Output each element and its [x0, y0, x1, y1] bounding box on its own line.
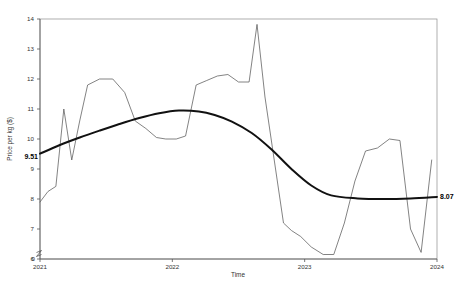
y-tick-label: 7	[31, 225, 35, 232]
y-tick-label-zero: 0	[32, 255, 36, 262]
y-tick-label: 12	[27, 75, 34, 82]
trend-end-value-label: 8.07	[440, 193, 454, 200]
line-chart: 67891011121314 0 2021202220232024 Time P…	[0, 0, 460, 284]
series-group	[40, 24, 437, 254]
y-tick-label: 10	[27, 135, 34, 142]
x-axis-title: Time	[231, 271, 245, 278]
plot-frame	[40, 19, 437, 259]
trend-start-value-label: 9.51	[24, 153, 38, 160]
x-tick-label: 2021	[33, 263, 47, 270]
y-axis-title: Price per kg ($)	[6, 117, 14, 161]
y-tick-label: 11	[28, 105, 35, 112]
y-tick-label: 8	[31, 195, 35, 202]
y-tick-label: 14	[27, 15, 34, 22]
series-line-trend	[40, 110, 437, 199]
axis-break-icon	[37, 251, 42, 257]
chart-container: 67891011121314 0 2021202220232024 Time P…	[0, 0, 460, 284]
series-line-price	[40, 24, 432, 254]
y-axis: 67891011121314 0	[27, 15, 41, 262]
y-tick-label: 9	[31, 165, 35, 172]
x-axis: 2021202220232024	[33, 259, 444, 270]
x-tick-label: 2023	[298, 263, 312, 270]
x-tick-label: 2022	[165, 263, 179, 270]
y-tick-label: 13	[27, 45, 34, 52]
x-tick-label: 2024	[430, 263, 444, 270]
annotations-group: 9.51 8.07	[24, 153, 453, 200]
